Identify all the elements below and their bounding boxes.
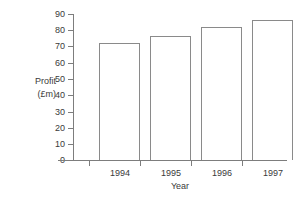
y-tick-label-10: 10 [45, 140, 65, 149]
y-tick-label-20: 20 [45, 124, 65, 133]
bar-chart: Profit (£m) 90 80 70 60 50 40 30 20 10 0… [0, 0, 300, 197]
x-tick-mark-2 [191, 161, 192, 166]
y-tick-label-50: 50 [45, 75, 65, 84]
bar-1997 [252, 20, 293, 160]
x-tick-label-1995: 1995 [151, 168, 191, 178]
bar-1996 [201, 27, 242, 160]
x-tick-mark-0 [89, 161, 90, 166]
x-tick-mark-1 [140, 161, 141, 166]
y-tick-label-70: 70 [45, 42, 65, 51]
bar-1995 [150, 36, 191, 160]
x-tick-label-1996: 1996 [202, 168, 242, 178]
x-tick-mark-3 [242, 161, 243, 166]
y-tick-label-60: 60 [45, 59, 65, 68]
x-axis-line [58, 160, 287, 161]
y-tick-label-30: 30 [45, 108, 65, 117]
y-tick-label-90: 90 [45, 10, 65, 19]
x-axis-title: Year [73, 181, 287, 191]
y-tick-label-80: 80 [45, 26, 65, 35]
bar-1994 [99, 43, 140, 160]
x-tick-label-1997: 1997 [253, 168, 293, 178]
y-axis-line [73, 14, 74, 161]
x-tick-label-1994: 1994 [100, 168, 140, 178]
y-tick-label-40: 40 [45, 91, 65, 100]
